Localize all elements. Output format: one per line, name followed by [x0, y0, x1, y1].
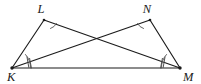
vertex-labels-group: K L N M [6, 2, 194, 84]
angle-ticks-group [27, 57, 165, 68]
vertex-dots-group [10, 19, 181, 70]
segment-LM [44, 20, 180, 68]
vertex-label-L: L [37, 2, 45, 16]
vertex-dot-L [43, 19, 46, 22]
angle-arc-L [51, 24, 57, 29]
vertex-label-K: K [6, 70, 16, 84]
segment-KN [12, 20, 150, 68]
vertex-label-M: M [182, 70, 194, 84]
vertex-label-N: N [142, 2, 152, 16]
vertex-dot-M [178, 66, 181, 69]
segment-NM [150, 20, 180, 68]
angle-arc-N [138, 24, 144, 29]
geometry-figure: K L N M [0, 0, 201, 84]
segments-group [12, 20, 180, 68]
geometry-canvas: K L N M [0, 0, 201, 84]
vertex-dot-N [149, 19, 152, 22]
angle-marks-group [26, 24, 167, 69]
